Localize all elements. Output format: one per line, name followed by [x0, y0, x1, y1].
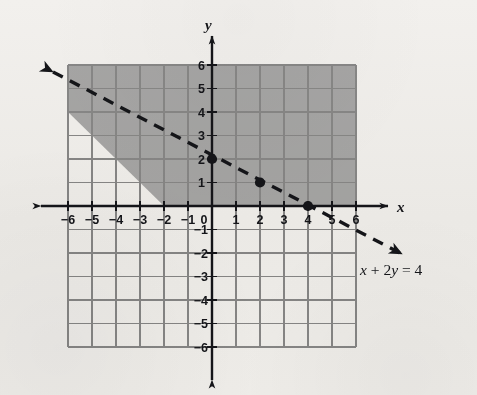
point-4-0 [303, 201, 313, 211]
y-tick-1: 1 [198, 176, 205, 190]
x-tick--6: −6 [61, 213, 75, 227]
y-tick--6: −6 [194, 341, 208, 355]
equation-label: x + 2y = 4 [359, 261, 423, 278]
equation-equals: = 4 [398, 261, 422, 278]
y-tick-4: 4 [198, 106, 205, 120]
x-tick--5: −5 [85, 213, 99, 227]
x-tick--3: −3 [133, 213, 147, 227]
equation-two: 2 [383, 261, 391, 278]
y-axis-name: y [203, 17, 212, 33]
y-tick--1: −1 [194, 223, 208, 237]
y-tick--5: −5 [194, 317, 208, 331]
y-tick-5: 5 [198, 82, 205, 96]
x-tick-1: 1 [233, 213, 240, 227]
y-tick--2: −2 [194, 247, 208, 261]
x-axis-name: x [396, 199, 405, 215]
x-tick-labels: −6 −5 −4 −3 −2 −1 1 2 3 4 5 6 [61, 213, 360, 227]
x-tick--4: −4 [109, 213, 123, 227]
coordinate-plane-graph: x y −6 −5 −4 −3 −2 −1 1 2 3 4 5 6 0 6 5 … [0, 0, 477, 395]
x-tick-4: 4 [305, 213, 312, 227]
x-tick--2: −2 [157, 213, 171, 227]
x-tick-6: 6 [353, 213, 360, 227]
equation-plus: + [367, 261, 384, 278]
point-0-2 [207, 154, 217, 164]
y-tick-6: 6 [198, 59, 205, 73]
x-tick-2: 2 [257, 213, 264, 227]
x-tick-3: 3 [281, 213, 288, 227]
figure-canvas: x y −6 −5 −4 −3 −2 −1 1 2 3 4 5 6 0 6 5 … [0, 0, 477, 395]
equation-x: x [359, 261, 367, 278]
equation-y: y [389, 261, 398, 278]
y-tick--3: −3 [194, 270, 208, 284]
y-tick--4: −4 [194, 294, 208, 308]
y-tick-3: 3 [198, 129, 205, 143]
y-tick-2: 2 [198, 153, 205, 167]
point-2-1 [255, 177, 265, 187]
